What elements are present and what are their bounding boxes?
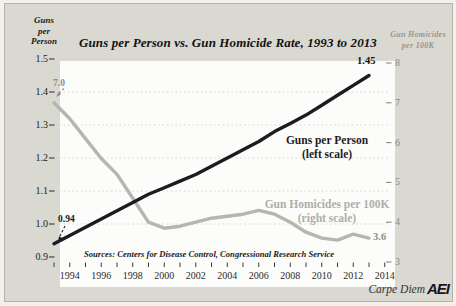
x-axis-tick-label: 2014	[368, 270, 402, 281]
left-axis-tick-label: 1.4	[0, 86, 48, 97]
homicides-series-label: Gun Homicides per 100K (right scale)	[260, 197, 394, 225]
right-axis-tick-label: 7	[395, 97, 425, 108]
x-axis-tick-label: 1996	[84, 270, 118, 281]
x-axis-tick-label: 2010	[305, 270, 339, 281]
left-axis-title-line3: Person	[18, 36, 70, 47]
left-axis-title-line2: per	[18, 26, 70, 37]
annotation-homicides-end: 3.6	[373, 231, 386, 242]
right-axis-tick-label: 6	[395, 137, 425, 148]
right-axis-title-line2: per 100K	[386, 40, 450, 51]
left-axis-tick-label: 1.3	[0, 119, 48, 130]
x-axis-tick-label: 2012	[336, 270, 370, 281]
x-axis-tick-label: 2000	[147, 270, 181, 281]
guns-series-label: Guns per Person (left scale)	[263, 133, 391, 161]
x-axis-tick-label: 2002	[179, 270, 213, 281]
left-axis-title-line1: Guns	[18, 15, 70, 26]
left-axis-tick-label: 1.2	[0, 152, 48, 163]
right-axis-tick-label: 8	[395, 57, 425, 68]
guns-series-label-scale-note: (left scale)	[263, 147, 391, 161]
annotation-guns-start: 0.94	[58, 214, 75, 224]
homicides-series-label-scale-note: (right scale)	[260, 211, 394, 225]
x-axis-tick-label: 2006	[242, 270, 276, 281]
annotation-homicides-start: 7.0	[53, 78, 65, 88]
right-axis-title: Gun Homicides per 100K	[386, 29, 450, 51]
screenshot-frame: Guns per Person vs. Gun Homicide Rate, 1…	[0, 0, 456, 306]
right-axis-title-line1: Gun Homicides	[386, 29, 450, 40]
right-axis-tick-label: 4	[395, 216, 425, 227]
x-axis-tick-label: 1994	[53, 270, 87, 281]
carpe-diem-credit: Carpe Diem	[353, 283, 425, 295]
right-axis-tick-label: 5	[395, 176, 425, 187]
sources-note: Sources: Centers for Disease Control, Co…	[84, 249, 364, 259]
x-axis-tick-label: 2008	[273, 270, 307, 281]
right-axis-tick-label: 3	[395, 256, 425, 267]
left-axis-tick-label: 1.5	[0, 53, 48, 64]
x-axis-tick-label: 2004	[210, 270, 244, 281]
left-axis-tick-label: 0.9	[0, 251, 48, 262]
aei-logo: AEI	[427, 280, 449, 297]
left-axis-title: Guns per Person	[18, 15, 70, 47]
annotation-guns-end: 1.45	[357, 55, 375, 66]
homicides-series-label-name: Gun Homicides per 100K	[260, 197, 394, 211]
guns-series-label-name: Guns per Person	[263, 133, 391, 147]
chart-title: Guns per Person vs. Gun Homicide Rate, 1…	[60, 35, 396, 51]
left-axis-tick-label: 1.0	[0, 218, 48, 229]
annotation-arrow-guns-start	[60, 226, 65, 236]
x-axis-tick-label: 1998	[116, 270, 150, 281]
left-axis-tick-label: 1.1	[0, 185, 48, 196]
